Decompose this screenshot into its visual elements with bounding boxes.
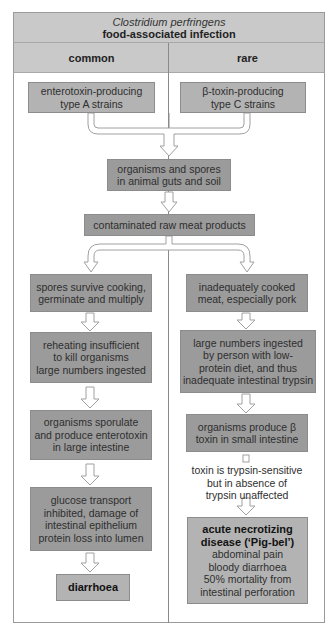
box-reservoir: organisms and spores in animal guts and … [107,159,231,191]
box-line: inadequate intestinal trypsin [183,374,313,387]
box-type-c-strains: β-toxin-producing type C strains [180,82,306,113]
box-left-step3: organisms sporulate and produce enteroto… [30,410,152,460]
outcome-title-line: disease (‘Pig-bel’) [201,536,295,549]
box-line: organisms produce β [198,421,296,434]
box-line: glucose transport [51,494,132,507]
outcome-label: diarrhoea [68,581,118,594]
box-line: and produce enterotoxin [34,429,147,442]
outcome-detail: abdominal pain [212,548,283,561]
box-line: β-toxin-producing [202,85,283,98]
box-line: organisms sporulate [44,416,139,429]
box-line: by person with low- [203,349,293,362]
box-line: spores survive cooking, [36,281,146,294]
box-line: inadequately cooked [199,281,295,294]
column-label-rare: rare [170,43,325,73]
organism-name: Clostridium perfringens [14,16,324,28]
note-line: but in absence of [176,477,318,490]
column-header-band: common rare [13,43,325,73]
box-line: in large intestine [53,441,129,454]
box-line: large numbers ingested [193,337,303,350]
box-line: type C strains [211,98,275,111]
box-line: meat, especially pork [198,293,297,306]
box-line: protein diet, and thus [199,362,297,375]
column-label-common: common [14,43,169,73]
box-left-step4: glucose transport inhibited, damage of i… [30,487,152,551]
box-line: germinate and multiply [38,293,144,306]
box-right-step3: organisms produce β toxin in small intes… [186,414,308,452]
box-line: inhibited, damage of [44,507,139,520]
box-line: large numbers ingested [36,364,146,377]
box-right-step2: large numbers ingested by person with lo… [180,330,316,393]
box-left-step1: spores survive cooking, germinate and mu… [30,274,152,312]
diagram-title: Clostridium perfringens food-associated … [13,12,325,43]
box-line: type A strains [60,98,122,111]
box-line: reheating insufficient [43,339,139,352]
box-line: intestinal epithelium [45,519,137,532]
note-line: toxin is trypsin-sensitive [176,464,318,477]
box-right-step1: inadequately cooked meat, especially por… [186,274,308,312]
box-line: protein loss into lumen [38,532,143,545]
box-left-step2: reheating insufficient to kill organisms… [30,332,152,383]
outcome-detail: bloody diarrhoea [208,561,286,574]
box-line: organisms and spores [117,163,220,176]
box-outcome-pig-bel: acute necrotizing disease (‘Pig-bel’) ab… [187,517,308,604]
note-line: trypsin unaffected [176,489,318,502]
outcome-detail: 50% mortality from [204,573,292,586]
box-line: enterotoxin-producing [41,85,143,98]
outcome-detail: intestinal perforation [200,586,295,599]
diagram-subtitle: food-associated infection [14,28,324,40]
box-line: to kill organisms [53,351,128,364]
column-divider [168,43,169,623]
box-line: contaminated raw meat products [93,219,245,232]
box-vehicle: contaminated raw meat products [84,214,255,236]
box-line: in animal guts and soil [117,175,221,188]
outcome-title-line: acute necrotizing [202,523,292,536]
trypsin-note: toxin is trypsin-sensitive but in absenc… [176,464,318,502]
box-line: toxin in small intestine [196,433,299,446]
box-type-a-strains: enterotoxin-producing type A strains [28,82,155,113]
box-outcome-diarrhoea: diarrhoea [56,574,130,601]
